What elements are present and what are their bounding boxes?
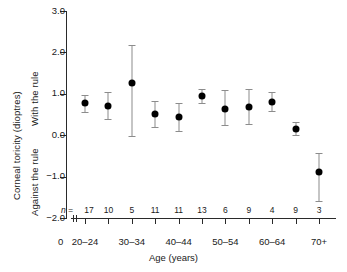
data-point [316,169,323,176]
x-axis-tick [272,219,273,224]
error-bar-cap [152,127,159,128]
data-point [152,111,159,118]
error-bar-cap [316,153,323,154]
sample-size-label: 13 [197,205,206,215]
error-bar-cap [245,124,252,125]
sample-size-label: 11 [151,205,160,215]
error-bar-cap [105,119,112,120]
corneal-toricity-chart: Corneal toricity (dioptres) With the rul… [0,0,347,272]
x-axis-tick-label: 70+ [311,236,327,247]
x-axis-tick-label: 30–34 [119,236,145,247]
sample-size-label: 3 [317,205,322,215]
error-bar-cap [105,92,112,93]
y-axis-label-with: With the rule [29,71,40,126]
data-point [292,125,299,132]
sample-size-label: 17 [84,205,93,215]
x-axis-tick-label: 60–64 [259,236,285,247]
data-point [82,100,89,107]
x-axis-tick [108,219,109,224]
data-point [245,103,252,110]
origin-label: 0 [58,236,63,247]
x-axis-tick [319,219,320,224]
x-axis-tick [155,219,156,224]
error-bar-cap [222,125,229,126]
error-bar [319,153,320,201]
error-bar-cap [199,89,206,90]
data-point [222,105,229,112]
data-point [128,80,135,87]
error-bar-cap [175,131,182,132]
x-axis-tick [179,219,180,224]
error-bar-cap [222,90,229,91]
error-bar-cap [128,45,135,46]
y-axis-tick-label: 0.0 [52,129,65,140]
sample-size-label: 10 [104,205,113,215]
x-axis-tick-label: 50–54 [212,236,238,247]
x-axis-tick [202,219,203,224]
data-point [269,98,276,105]
error-bar-cap [175,103,182,104]
x-axis-title: Age (years) [0,252,347,263]
y-axis-label-against: Against the rule [29,148,40,216]
error-bar-cap [316,201,323,202]
y-axis-tick-label: 2.0 [52,46,65,57]
sample-size-label: 9 [293,205,298,215]
sample-size-label: 11 [174,205,183,215]
data-point [105,102,112,109]
error-bar-cap [152,101,159,102]
sample-size-label: 6 [223,205,228,215]
sample-size-label: 4 [270,205,275,215]
x-axis-tick-label: 40–44 [165,236,191,247]
x-axis-tick [85,219,86,224]
error-bar-cap [199,103,206,104]
axis-break-mark [73,215,74,222]
y-axis-tick-label: 1.0 [52,87,65,98]
error-bar-cap [269,111,276,112]
x-axis-tick [132,219,133,224]
sample-size-label: 9 [246,205,251,215]
y-axis-tick-label: −2.0 [46,212,65,223]
y-axis-title: Corneal toricity (dioptres) [11,91,22,200]
error-bar-cap [245,89,252,90]
y-axis-tick-label: −1.0 [46,170,65,181]
error-bar-cap [292,122,299,123]
error-bar-cap [128,136,135,137]
y-axis-line [66,11,67,219]
error-bar-cap [82,95,89,96]
x-axis-tick-label: 20–24 [72,236,98,247]
x-axis-tick [296,219,297,224]
error-bar-cap [269,92,276,93]
y-axis-tick-label: 3.0 [52,5,65,16]
axis-break-mark [76,215,77,222]
x-axis-tick [249,219,250,224]
sample-size-label: 5 [129,205,134,215]
x-axis-tick [225,219,226,224]
error-bar-cap [292,135,299,136]
data-point [175,114,182,121]
error-bar [131,45,132,135]
data-point [199,93,206,100]
error-bar-cap [82,112,89,113]
